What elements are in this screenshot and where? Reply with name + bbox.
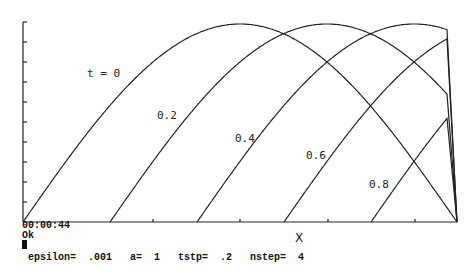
x-axis-label: X	[295, 231, 303, 245]
curve-label: t = 0	[87, 67, 120, 80]
curve-label: 0.6	[306, 149, 326, 162]
curve-label: 0.4	[235, 132, 255, 145]
curve-02	[110, 24, 457, 222]
text-cursor	[22, 240, 27, 249]
curve-label: 0.2	[157, 109, 177, 122]
curve-04	[197, 24, 457, 222]
curve-label: 0.8	[369, 178, 389, 191]
params-line: epsilon= .001 a= 1 tstp= .2 nstep= 4	[28, 253, 304, 263]
curve-08	[371, 119, 457, 223]
curve-06	[284, 39, 457, 222]
